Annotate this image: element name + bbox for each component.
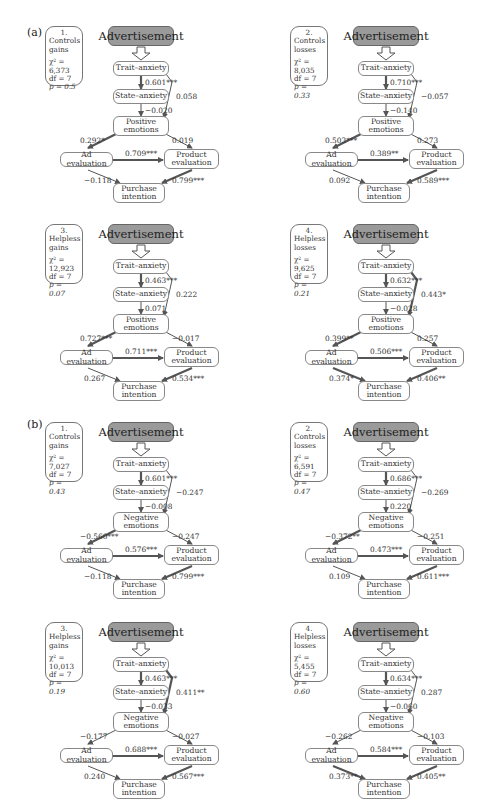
model-fit-box: 3. Helpless gains χ² = 10,013 df = 7 p =… — [45, 622, 83, 682]
state-anxiety-label: State–anxiety — [115, 92, 167, 100]
coef-ad-product: 0.389** — [370, 149, 399, 158]
chi-square-value: χ² = 8,035 — [294, 57, 315, 74]
product-evaluation-node: Productevaluation — [409, 149, 464, 169]
condition-label: losses — [294, 243, 316, 252]
advertisement-label: Advertisement — [343, 32, 428, 40]
product-evaluation-label: Productevaluation — [416, 747, 456, 764]
p-value: p = 0.47 — [294, 478, 310, 495]
path-diagram-panel-a-3: 3. Helpless gains χ² = 12,923 df = 7 p =… — [0, 198, 245, 398]
p-value: p = 0.5 — [49, 82, 76, 91]
hollow-down-arrow-icon — [377, 245, 395, 258]
emotions-label: Negativeemotions — [368, 714, 403, 731]
purchase-intention-node: Purchaseintention — [358, 779, 410, 799]
advertisement-label: Advertisement — [98, 428, 183, 436]
advertisement-node: Advertisement — [353, 224, 419, 244]
condition-label: gains — [49, 45, 69, 54]
state-anxiety-label: State–anxiety — [360, 290, 412, 298]
path-diagram-panel-b-2: 2. Controls losses χ² = 6,591 df = 7 p =… — [245, 396, 490, 596]
state-anxiety-node: State–anxiety — [113, 685, 169, 700]
product-evaluation-label: Productevaluation — [416, 349, 456, 366]
trait-anxiety-label: Trait–anxiety — [361, 64, 411, 72]
trait-anxiety-node: Trait–anxiety — [113, 657, 169, 672]
state-anxiety-node: State–anxiety — [113, 485, 169, 500]
product-evaluation-node: Productevaluation — [409, 745, 464, 765]
product-evaluation-label: Productevaluation — [171, 151, 211, 168]
condition-label: losses — [294, 441, 316, 450]
product-evaluation-label: Productevaluation — [416, 547, 456, 564]
coef-trait-emotion: 0.058 — [176, 92, 197, 101]
ad-evaluation-label: Ad evaluation — [61, 747, 112, 764]
model-fit-box: 1. Controls gains χ² = 6,373 df = 7 p = … — [45, 26, 83, 86]
advertisement-label: Advertisement — [98, 32, 183, 40]
emotions-node: Negativeemotions — [358, 712, 414, 732]
advertisement-node: Advertisement — [108, 622, 174, 642]
purchase-intention-label: Purchaseintention — [366, 581, 402, 598]
advertisement-node: Advertisement — [108, 422, 174, 442]
emotions-node: Negativeemotions — [113, 712, 169, 732]
advertisement-node: Advertisement — [353, 422, 419, 442]
hollow-down-arrow-icon — [132, 643, 150, 656]
advertisement-label: Advertisement — [98, 628, 183, 636]
coef-trait-state: 0.463*** — [145, 276, 177, 285]
path-diagram-panel-a-1: 1. Controls gains χ² = 6,373 df = 7 p = … — [0, 0, 245, 200]
model-fit-box: 2. Controls losses χ² = 6,591 df = 7 p =… — [290, 422, 328, 482]
state-anxiety-node: State–anxiety — [358, 485, 414, 500]
state-anxiety-label: State–anxiety — [115, 688, 167, 696]
chi-square-value: χ² = 6,591 — [294, 453, 315, 470]
product-evaluation-label: Productevaluation — [416, 151, 456, 168]
coef-state-emotion: −0.033 — [145, 702, 172, 711]
trait-anxiety-label: Trait–anxiety — [116, 262, 166, 270]
coef-emotion-product: 0.019 — [172, 136, 193, 145]
coef-product-purchase: 0.567*** — [172, 772, 204, 781]
state-anxiety-label: State–anxiety — [115, 488, 167, 496]
advertisement-label: Advertisement — [98, 230, 183, 238]
coef-emotion-product: −0.017 — [172, 334, 199, 343]
product-evaluation-node: Productevaluation — [164, 149, 219, 169]
coef-product-purchase: 0.799*** — [172, 176, 204, 185]
product-evaluation-node: Productevaluation — [409, 545, 464, 565]
coef-ad-product: 0.576*** — [125, 545, 157, 554]
p-value: p = 0.43 — [49, 478, 65, 495]
product-evaluation-node: Productevaluation — [409, 347, 464, 367]
coef-trait-state: 0.601*** — [145, 78, 177, 87]
p-value: p = 0.33 — [294, 82, 310, 99]
coef-emotion-product: −0.103 — [417, 732, 444, 741]
path-diagram-panel-a-4: 4. Helpless losses χ² = 9,625 df = 7 p =… — [245, 198, 490, 398]
ad-evaluation-label: Ad evaluation — [306, 151, 357, 168]
coef-state-emotion: −0.060 — [390, 702, 417, 711]
p-value: p = 0.07 — [49, 280, 65, 297]
coef-trait-emotion: 0.222 — [176, 290, 197, 299]
path-diagram-panel-b-3: 3. Helpless gains χ² = 10,013 df = 7 p =… — [0, 596, 245, 796]
coef-product-purchase: 0.405** — [417, 772, 446, 781]
model-fit-box: 2. Controls losses χ² = 8,035 df = 7 p =… — [290, 26, 328, 86]
emotions-node: Positiveemotions — [113, 314, 169, 334]
coef-trait-emotion: −0.247 — [176, 488, 203, 497]
state-anxiety-node: State–anxiety — [113, 287, 169, 302]
advertisement-node: Advertisement — [108, 26, 174, 46]
ad-evaluation-label: Ad evaluation — [61, 547, 112, 564]
coef-emotion-ad: 0.727*** — [80, 334, 112, 343]
path-diagram-panel-a-2: 2. Controls losses χ² = 8,035 df = 7 p =… — [245, 0, 490, 200]
model-fit-box: 4. Helpless losses χ² = 9,625 df = 7 p =… — [290, 224, 328, 284]
trait-anxiety-label: Trait–anxiety — [116, 660, 166, 668]
coef-emotion-ad: −0.372** — [325, 532, 360, 541]
coef-emotion-product: −0.027 — [172, 732, 199, 741]
coef-ad-purchase: −0.118 — [84, 572, 111, 581]
trait-anxiety-node: Trait–anxiety — [113, 457, 169, 472]
coef-emotion-ad: 0.292* — [80, 136, 105, 145]
trait-anxiety-label: Trait–anxiety — [116, 64, 166, 72]
advertisement-node: Advertisement — [353, 622, 419, 642]
coef-trait-emotion: 0.443* — [421, 290, 446, 299]
coef-state-emotion: −0.140 — [390, 106, 417, 115]
coef-trait-state: 0.632*** — [390, 276, 422, 285]
condition-label: gains — [49, 441, 69, 450]
state-anxiety-label: State–anxiety — [360, 488, 412, 496]
coef-product-purchase: 0.589*** — [417, 176, 449, 185]
hollow-down-arrow-icon — [132, 443, 150, 456]
chi-square-value: χ² = 9,625 — [294, 255, 315, 272]
state-anxiety-node: State–anxiety — [358, 685, 414, 700]
model-fit-box: 4. Helpless losses χ² = 5,455 df = 7 p =… — [290, 622, 328, 682]
trait-anxiety-label: Trait–anxiety — [361, 460, 411, 468]
ad-evaluation-label: Ad evaluation — [306, 747, 357, 764]
coef-trait-emotion: 0.411** — [176, 688, 205, 697]
